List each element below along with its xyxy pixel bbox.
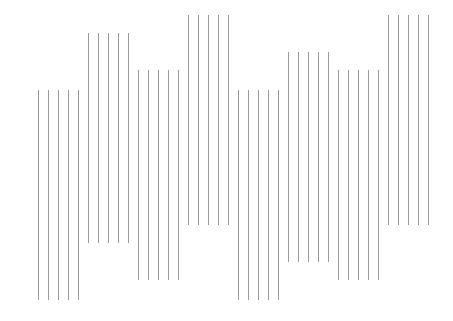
line-group-4 — [189, 15, 229, 225]
line-group-3 — [139, 70, 179, 280]
line-group-7 — [339, 70, 379, 280]
line-group-5 — [239, 90, 279, 300]
line-group-6 — [289, 52, 329, 262]
line-group-2 — [89, 33, 129, 243]
vertical-line-pattern — [0, 0, 453, 321]
line-group-1 — [39, 90, 79, 300]
line-group-8 — [389, 15, 429, 225]
